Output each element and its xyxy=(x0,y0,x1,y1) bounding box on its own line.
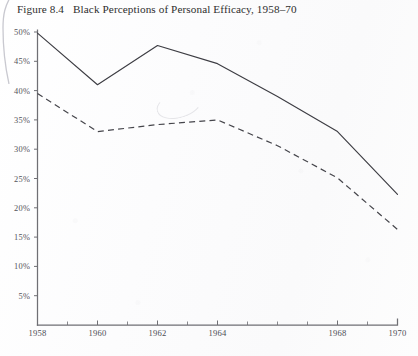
y-tick-label: 45% xyxy=(14,57,31,66)
x-axis-labels: 195819601962196419681970 xyxy=(29,328,407,338)
y-tick-label: 25% xyxy=(14,175,31,184)
figure-page: Figure 8.4Black Perceptions of Personal … xyxy=(0,0,418,356)
x-axis-ticks xyxy=(38,321,398,326)
y-tick-label: 40% xyxy=(14,87,31,96)
efficacy-line-chart: 5%10%15%20%25%30%35%40%45%50% 1958196019… xyxy=(0,0,418,356)
y-tick-label: 50% xyxy=(14,28,31,37)
y-tick-label: 35% xyxy=(14,116,31,125)
y-tick-label: 30% xyxy=(14,145,31,154)
y-axis-labels: 5%10%15%20%25%30%35%40%45%50% xyxy=(14,28,31,301)
x-tick-label: 1960 xyxy=(89,328,107,338)
series-solid-line xyxy=(38,33,398,194)
x-tick-label: 1968 xyxy=(329,328,347,338)
x-tick-label: 1962 xyxy=(149,328,167,338)
y-tick-label: 20% xyxy=(14,204,31,213)
series-dashed-line xyxy=(38,94,398,230)
y-tick-label: 5% xyxy=(19,292,31,301)
y-tick-label: 10% xyxy=(14,262,31,271)
x-tick-label: 1958 xyxy=(29,328,47,338)
y-tick-label: 15% xyxy=(14,233,31,242)
x-tick-label: 1970 xyxy=(389,328,407,338)
x-tick-label: 1964 xyxy=(209,328,227,338)
